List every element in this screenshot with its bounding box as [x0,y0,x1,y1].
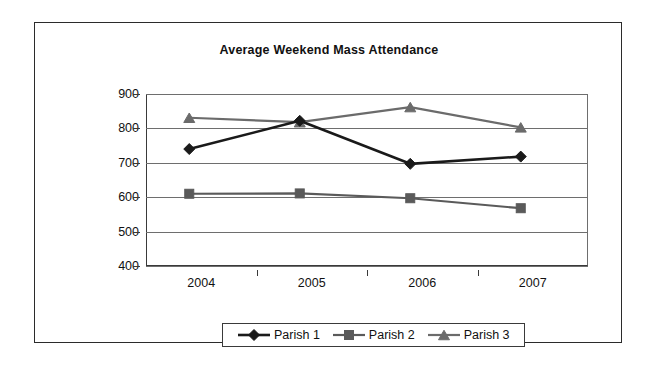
legend-item-parish-3: Parish 3 [427,328,510,342]
legend-label-parish-2: Parish 2 [369,328,415,342]
x-axis-tick-3 [478,270,479,276]
series-parish-1 [184,115,527,169]
x-axis-label-2007: 2007 [498,276,568,290]
y-axis-tick-400 [133,266,140,267]
legend-label-parish-1: Parish 1 [274,328,320,342]
chart-title: Average Weekend Mass Attendance [35,43,623,57]
data-point-parish-1-2006 [405,158,416,169]
chart-frame: Average Weekend Mass Attendance 40050060… [34,22,622,343]
legend-marker-square-icon [332,328,366,342]
x-axis-label-2005: 2005 [277,276,347,290]
data-point-parish-2-2005 [295,189,304,198]
series-parish-3 [184,102,527,132]
legend-label-parish-3: Parish 3 [464,328,510,342]
legend-marker-triangle-icon [427,328,461,342]
data-point-parish-2-2007 [516,204,525,213]
x-axis-label-2004: 2004 [166,276,236,290]
data-point-parish-2-2004 [185,189,194,198]
x-axis-tick-2 [367,270,368,276]
chart-legend: Parish 1Parish 2Parish 3 [222,323,525,347]
x-axis-label-2006: 2006 [387,276,457,290]
y-axis-tick-700 [133,163,140,164]
series-parish-2 [185,189,526,213]
data-point-parish-1-2007 [515,151,526,162]
data-point-parish-2-2006 [406,194,415,203]
y-axis-tick-800 [133,128,140,129]
y-axis-tick-900 [133,94,140,95]
legend-marker-diamond-icon [237,328,271,342]
x-axis-tick-1 [257,270,258,276]
gridline-400 [146,266,588,267]
legend-item-parish-1: Parish 1 [237,328,320,342]
legend-item-parish-2: Parish 2 [332,328,415,342]
x-axis: 2004200520062007 [146,270,588,294]
y-axis: 400500600700800900 [83,94,139,266]
chart-page: Average Weekend Mass Attendance 40050060… [0,0,652,368]
data-point-parish-1-2004 [184,144,195,155]
series-plot [146,94,588,266]
y-axis-tick-500 [133,232,140,233]
y-axis-tick-600 [133,197,140,198]
